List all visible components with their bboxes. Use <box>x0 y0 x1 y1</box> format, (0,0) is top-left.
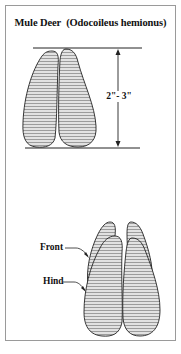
measurement-label: 2"- 3" <box>104 91 134 102</box>
left-toe <box>23 51 58 147</box>
front-label: Front <box>40 242 63 253</box>
single-track <box>23 49 96 147</box>
track-illustration <box>0 0 181 354</box>
leader-lines <box>63 248 89 292</box>
hind-right-toe <box>123 238 160 336</box>
right-toe <box>59 49 97 147</box>
hind-left-toe <box>84 236 122 336</box>
overlapping-track <box>84 222 160 336</box>
hind-label: Hind <box>43 276 64 287</box>
